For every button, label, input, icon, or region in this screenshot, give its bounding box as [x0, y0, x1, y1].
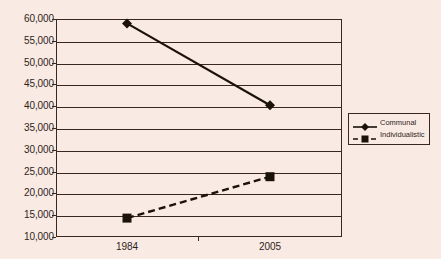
gridline: [57, 107, 341, 108]
y-axis-label: 10,000: [2, 232, 54, 242]
y-axis-label: 60,000: [2, 14, 54, 24]
legend-item-communal: Communal: [352, 117, 425, 129]
gridline: [57, 85, 341, 86]
legend-label-communal: Communal: [380, 119, 416, 127]
gridline: [57, 173, 341, 174]
legend-label-individualistic: Individualistic: [380, 131, 425, 139]
gridline: [57, 64, 341, 65]
gridline: [57, 42, 341, 43]
x-axis-label: 2005: [230, 241, 310, 253]
y-axis-label: 40,000: [2, 101, 54, 111]
y-axis-tick: [52, 237, 56, 238]
y-axis-label: 20,000: [2, 188, 54, 198]
gridline: [57, 194, 341, 195]
y-axis-label: 55,000: [2, 36, 54, 46]
line-chart: 60,000 55,000 50,000 45,000 40,000 35,00…: [0, 0, 441, 259]
y-axis: 60,000 55,000 50,000 45,000 40,000 35,00…: [0, 0, 54, 259]
y-axis-label: 15,000: [2, 210, 54, 220]
y-axis-label: 35,000: [2, 123, 54, 133]
y-axis-label: 30,000: [2, 145, 54, 155]
gridline: [57, 216, 341, 217]
gridline: [57, 151, 341, 152]
x-axis-center-tick: [198, 237, 199, 241]
plot-area: [56, 19, 342, 237]
legend-item-individualistic: Individualistic: [352, 129, 425, 141]
y-axis-label: 25,000: [2, 167, 54, 177]
y-axis-label: 50,000: [2, 58, 54, 68]
individualistic-legend-swatch-icon: [352, 130, 378, 140]
y-axis-label: 45,000: [2, 79, 54, 89]
x-axis-label: 1984: [87, 241, 167, 253]
gridline: [57, 129, 341, 130]
communal-legend-swatch-icon: [352, 118, 378, 128]
legend: Communal Individualistic: [348, 113, 430, 145]
